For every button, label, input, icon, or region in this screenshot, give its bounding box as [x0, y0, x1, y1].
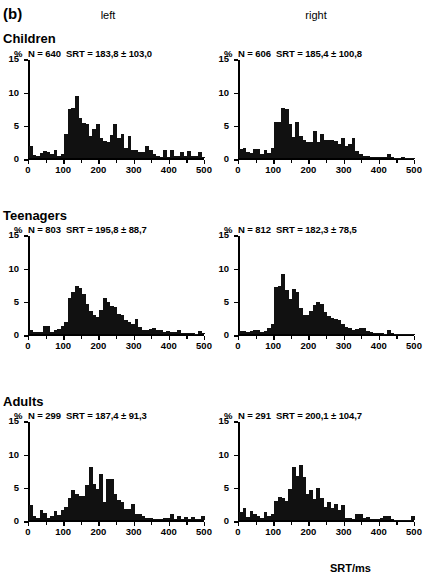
panel-label: (b)	[3, 5, 22, 22]
histogram-bar	[201, 157, 205, 158]
y-axis-tick: 10	[24, 93, 28, 94]
bar-series	[29, 58, 205, 158]
y-axis-tick: 15	[234, 59, 238, 60]
y-axis-tick-label: 5	[224, 296, 229, 307]
bar-series	[29, 420, 205, 520]
plot-axes: 0510150100200300400500	[28, 236, 204, 336]
y-axis-tick-label: 5	[14, 296, 19, 307]
plot-axes: 0510150100200300400500	[238, 422, 414, 522]
x-axis-minor-tick	[291, 522, 292, 525]
x-axis-minor-tick	[116, 336, 117, 339]
histogram-bar	[201, 333, 205, 334]
y-axis-tick-label: 10	[218, 449, 229, 460]
y-axis-tick-label: 15	[218, 53, 229, 64]
plot-axes: 0510150100200300400500	[238, 236, 414, 336]
x-axis-tick-label: 300	[126, 340, 142, 351]
histogram-adults-left: % N = 299 SRT = 187,4 ± 91,3 05101501002…	[6, 410, 206, 555]
histogram-children-right: % N = 606 SRT = 185,4 ± 100,8 0510150100…	[216, 48, 416, 193]
x-axis-tick-label: 200	[300, 164, 316, 175]
x-axis-tick-label: 500	[196, 526, 212, 537]
y-axis-tick: 15	[24, 421, 28, 422]
histogram-teenagers-right: % N = 812 SRT = 182,3 ± 78,5 05101501002…	[216, 224, 416, 369]
x-axis-minor-tick	[46, 160, 47, 163]
histogram-adults-right: % N = 291 SRT = 200,1 ± 104,7 0510150100…	[216, 410, 416, 555]
bar-series	[239, 234, 415, 334]
y-axis-tick-label: 0	[224, 515, 229, 526]
x-axis-minor-tick	[396, 336, 397, 339]
bar-series	[29, 234, 205, 334]
plot-axes: 0510150100200300400500	[28, 60, 204, 160]
histogram-bar	[411, 516, 415, 520]
x-axis-tick-label: 100	[265, 526, 281, 537]
x-axis-tick-label: 200	[90, 526, 106, 537]
y-axis-tick: 10	[24, 455, 28, 456]
x-axis-minor-tick	[46, 522, 47, 525]
sample-size-label: N = 640	[28, 48, 61, 59]
y-axis-tick-label: 5	[14, 120, 19, 131]
x-axis-tick-label: 0	[25, 526, 30, 537]
y-axis-tick-label: 10	[8, 87, 19, 98]
y-axis-tick-label: 0	[224, 153, 229, 164]
x-axis-tick-label: 0	[235, 164, 240, 175]
y-axis-tick-label: 15	[8, 53, 19, 64]
x-axis-minor-tick	[46, 336, 47, 339]
y-axis-tick-label: 10	[8, 449, 19, 460]
y-axis-tick: 10	[234, 455, 238, 456]
panel-stats-adults-left: N = 299 SRT = 187,4 ± 91,3	[28, 410, 147, 421]
x-axis-minor-tick	[151, 160, 152, 163]
y-axis-tick-label: 10	[218, 263, 229, 274]
x-axis-tick-label: 0	[25, 340, 30, 351]
x-axis-tick-label: 500	[196, 340, 212, 351]
histogram-bar	[201, 516, 205, 520]
sample-size-label: N = 291	[238, 410, 271, 421]
sample-size-label: N = 606	[238, 48, 271, 59]
x-axis-tick-label: 500	[406, 164, 422, 175]
y-axis-tick-label: 10	[218, 87, 229, 98]
sample-size-label: N = 299	[28, 410, 61, 421]
x-axis-minor-tick	[186, 522, 187, 525]
x-axis-minor-tick	[326, 336, 327, 339]
x-axis-minor-tick	[326, 160, 327, 163]
plot-axes: 0510150100200300400500	[238, 60, 414, 160]
x-axis-minor-tick	[256, 160, 257, 163]
x-axis-tick-label: 300	[336, 340, 352, 351]
sample-size-label: N = 812	[238, 224, 271, 235]
x-axis-minor-tick	[81, 160, 82, 163]
histogram-children-left: % N = 640 SRT = 183,8 ± 103,0 0510150100…	[6, 48, 206, 193]
x-axis-title: SRT/ms	[330, 562, 371, 574]
panel-stats-teenagers-right: N = 812 SRT = 182,3 ± 78,5	[238, 224, 357, 235]
y-axis-tick: 10	[24, 269, 28, 270]
x-axis-minor-tick	[396, 522, 397, 525]
y-axis-tick: 15	[24, 235, 28, 236]
x-axis-minor-tick	[396, 160, 397, 163]
x-axis-minor-tick	[151, 336, 152, 339]
x-axis-minor-tick	[256, 336, 257, 339]
y-axis-tick: 15	[234, 421, 238, 422]
y-axis-tick-label: 5	[224, 482, 229, 493]
srt-stat-label: SRT = 195,8 ± 88,7	[66, 224, 147, 235]
panel-stats-children-right: N = 606 SRT = 185,4 ± 100,8	[238, 48, 362, 59]
x-axis-tick-label: 0	[25, 164, 30, 175]
y-axis-tick: 5	[234, 302, 238, 303]
y-axis-tick-label: 15	[218, 229, 229, 240]
srt-stat-label: SRT = 200,1 ± 104,7	[276, 410, 362, 421]
x-axis-tick-label: 200	[90, 340, 106, 351]
group-title-teenagers: Teenagers	[3, 208, 67, 223]
x-axis-minor-tick	[256, 522, 257, 525]
x-axis-tick-label: 100	[55, 340, 71, 351]
x-axis-tick-label: 100	[265, 340, 281, 351]
x-axis-tick-label: 400	[161, 340, 177, 351]
y-axis-tick: 10	[234, 93, 238, 94]
group-title-children: Children	[3, 31, 56, 46]
x-axis-tick-label: 300	[126, 526, 142, 537]
y-axis-tick-label: 0	[14, 153, 19, 164]
y-axis-tick: 5	[234, 488, 238, 489]
histogram-bar	[411, 334, 415, 335]
x-axis-tick-label: 400	[161, 164, 177, 175]
y-axis-tick-label: 10	[8, 263, 19, 274]
x-axis-tick-label: 300	[336, 526, 352, 537]
x-axis-minor-tick	[186, 336, 187, 339]
y-axis-tick-label: 0	[14, 329, 19, 340]
group-title-adults: Adults	[3, 394, 43, 409]
y-axis-tick-label: 15	[8, 415, 19, 426]
